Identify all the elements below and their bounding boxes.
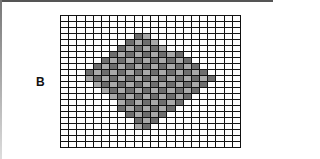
grid-cell [61, 142, 68, 147]
grid-cell [110, 28, 117, 33]
grid-cell [184, 112, 191, 117]
grid-cell [192, 16, 199, 21]
grid-cell [216, 16, 223, 21]
grid-cell [94, 16, 101, 21]
grid-cell [184, 106, 191, 111]
grid-cell-shaded [151, 58, 158, 63]
grid-cell [61, 106, 68, 111]
grid-cell-shaded [151, 64, 158, 69]
grid-cell [126, 34, 133, 39]
grid-cell-shaded [151, 112, 158, 117]
grid-cell-shaded [184, 70, 191, 75]
grid-cell-shaded [86, 70, 93, 75]
grid-cell [184, 40, 191, 45]
grid-cell [167, 124, 174, 129]
grid-cell [86, 22, 93, 27]
grid-cell-shaded [135, 100, 142, 105]
grid-cell [233, 58, 240, 63]
grid-cell [61, 70, 68, 75]
grid-cell-shaded [167, 82, 174, 87]
grid-cell-shaded [118, 64, 125, 69]
grid-cell-shaded [110, 52, 117, 57]
grid-cell [143, 136, 150, 141]
grid-cell [192, 34, 199, 39]
grid-cell [61, 130, 68, 135]
grid-cell [118, 118, 125, 123]
grid-cell [118, 142, 125, 147]
grid-cell [102, 28, 109, 33]
grid-cell [61, 76, 68, 81]
grid-cell-shaded [135, 46, 142, 51]
grid-cell [200, 136, 207, 141]
grid-cell [200, 22, 207, 27]
grid-cell [77, 82, 84, 87]
grid-cell [77, 28, 84, 33]
grid-cell-shaded [192, 70, 199, 75]
grid-cell [77, 118, 84, 123]
grid-cell [110, 106, 117, 111]
grid-cell [167, 46, 174, 51]
grid-cell [233, 28, 240, 33]
grid-cell-shaded [102, 76, 109, 81]
grid-cell [86, 46, 93, 51]
grid-cell [69, 76, 76, 81]
grid-cell [118, 124, 125, 129]
grid-cell [233, 16, 240, 21]
grid-cell [225, 40, 232, 45]
grid-cell-shaded [135, 88, 142, 93]
grid-cell [135, 28, 142, 33]
grid-cell [216, 112, 223, 117]
grid-cell [159, 136, 166, 141]
grid-cell [216, 52, 223, 57]
grid-cell [61, 136, 68, 141]
grid-cell [225, 118, 232, 123]
grid-cell [86, 100, 93, 105]
grid-cell [216, 124, 223, 129]
grid-cell [86, 88, 93, 93]
grid-cell [86, 58, 93, 63]
grid-cell [94, 88, 101, 93]
grid-cell [176, 142, 183, 147]
grid-cell [69, 106, 76, 111]
grid-cell-shaded [126, 112, 133, 117]
grid-cell [208, 130, 215, 135]
grid-cell-shaded [176, 94, 183, 99]
grid-cell [102, 22, 109, 27]
grid-cell-shaded [126, 94, 133, 99]
grid-cell [200, 118, 207, 123]
grid-cell [216, 82, 223, 87]
grid-cell [184, 130, 191, 135]
grid-cell [233, 94, 240, 99]
grid-cell [110, 100, 117, 105]
grid-cell [159, 16, 166, 21]
grid-cell-shaded [143, 58, 150, 63]
grid-cell [216, 100, 223, 105]
grid-cell [192, 46, 199, 51]
grid-cell [77, 100, 84, 105]
grid-cell [118, 22, 125, 27]
grid-cell [159, 130, 166, 135]
grid-cell [225, 100, 232, 105]
grid-cell-shaded [151, 106, 158, 111]
grid-cell [176, 34, 183, 39]
grid-cell-shaded [110, 94, 117, 99]
grid-cell [200, 34, 207, 39]
grid-cell [77, 34, 84, 39]
grid-cell-shaded [126, 70, 133, 75]
grid-cell [233, 88, 240, 93]
grid-cell [69, 100, 76, 105]
grid-cell [61, 88, 68, 93]
grid-cell [86, 112, 93, 117]
grid-cell [233, 70, 240, 75]
grid-cell [167, 28, 174, 33]
grid-cell [208, 124, 215, 129]
grid-cell-shaded [184, 76, 191, 81]
grid-cell [192, 124, 199, 129]
grid-cell-shaded [126, 46, 133, 51]
grid-cell [69, 34, 76, 39]
grid-cell-shaded [192, 88, 199, 93]
grid-cell [118, 28, 125, 33]
grid-cell [200, 142, 207, 147]
grid-cell [233, 130, 240, 135]
grid-cell [151, 34, 158, 39]
